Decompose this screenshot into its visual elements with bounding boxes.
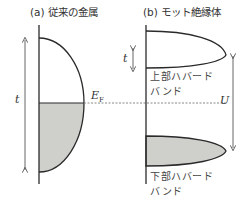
- hopping-label-b: t: [123, 53, 127, 64]
- lower-hubbard-band: [146, 136, 226, 166]
- fermi-energy-label: EF: [91, 90, 104, 104]
- band-upper-curve: [39, 38, 84, 103]
- occupied-states-fill: [39, 103, 84, 172]
- upper-band-label-2: バンド: [150, 87, 183, 97]
- panel-a-title: (a) 従来の金属: [30, 7, 98, 18]
- lower-band-label-1: 下部ハバード: [150, 172, 213, 182]
- hopping-label-a: t: [15, 94, 19, 105]
- lower-band-label-2: バンド: [150, 187, 183, 197]
- metal-band: [25, 25, 84, 184]
- upper-band-label-1: 上部ハバード: [150, 72, 213, 82]
- upper-hubbard-band: [146, 31, 226, 68]
- panel-b-title: (b) モット絶縁体: [143, 7, 221, 18]
- hubbard-u-label: U: [220, 95, 229, 106]
- mott-bands: [133, 25, 233, 184]
